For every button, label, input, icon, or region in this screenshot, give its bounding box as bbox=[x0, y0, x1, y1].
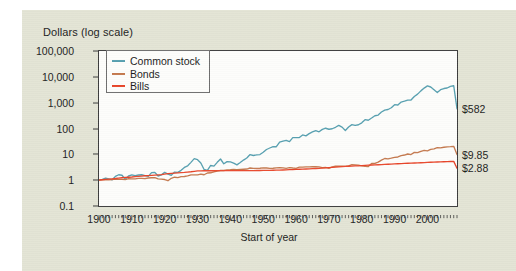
y-axis-tick-label: 100 bbox=[56, 123, 74, 135]
legend-swatch-icon bbox=[112, 73, 125, 75]
y-axis-title: Dollars (log scale) bbox=[43, 26, 133, 38]
x-axis-minor-ticks bbox=[98, 206, 458, 211]
series-line bbox=[99, 86, 457, 180]
end-value-label: $9.85 bbox=[462, 149, 488, 161]
legend-swatch-icon bbox=[112, 85, 125, 87]
y-axis-tick-label: 10 bbox=[62, 148, 74, 160]
y-axis-tick-label: 1,000 bbox=[48, 97, 74, 109]
end-value-label: $582 bbox=[462, 103, 485, 115]
y-axis-tick-label: 1 bbox=[68, 174, 74, 186]
legend-item: Bills bbox=[112, 80, 209, 93]
legend-item: Common stock bbox=[112, 55, 209, 68]
end-value-label: $2.88 bbox=[462, 162, 488, 174]
legend-swatch-icon bbox=[112, 60, 125, 62]
chart-legend: Common stockBondsBills bbox=[106, 50, 210, 93]
figure-panel: Dollars (log scale) 100,00010,0001,00010… bbox=[22, 10, 516, 271]
legend-item: Bonds bbox=[112, 68, 209, 81]
legend-item-label: Bonds bbox=[130, 68, 160, 80]
y-axis-tick-label: 10,000 bbox=[42, 71, 74, 83]
y-axis-tick-label: 100,000 bbox=[36, 45, 74, 57]
y-axis-tick-label: 0.1 bbox=[59, 200, 74, 212]
legend-item-label: Bills bbox=[130, 80, 149, 92]
legend-item-label: Common stock bbox=[130, 55, 200, 67]
x-axis-title: Start of year bbox=[22, 231, 516, 243]
